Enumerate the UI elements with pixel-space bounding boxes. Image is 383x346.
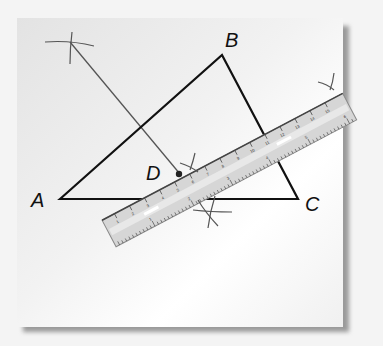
label-c: C [305, 193, 320, 215]
construction-arc-near-d [180, 153, 198, 172]
ruler: 1 2 3 4 5 6 7 8 9 10 11 12 13 14 15 1 2 … [102, 93, 357, 246]
label-a: A [30, 189, 44, 211]
triangle-abc [60, 55, 298, 199]
point-d-marker [176, 171, 182, 177]
geometry-diagram: 1 2 3 4 5 6 7 8 9 10 11 12 13 14 15 1 2 … [0, 0, 383, 346]
ruler-top-ticks [114, 103, 327, 218]
label-d: D [146, 162, 160, 184]
construction-arc-upper-left [45, 32, 94, 64]
label-b: B [225, 29, 238, 51]
construction-arc-upper-right [318, 73, 334, 90]
construction-arc-below-ruler [193, 196, 232, 228]
